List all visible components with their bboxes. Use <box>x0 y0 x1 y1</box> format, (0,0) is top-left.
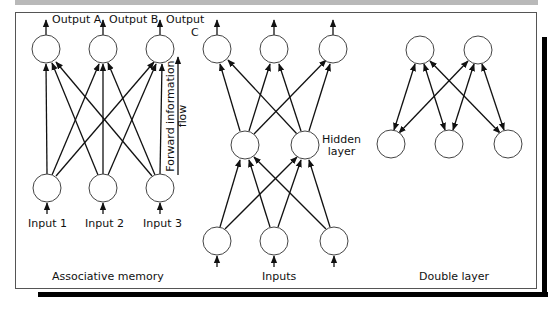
input-1-label: Input 1 <box>28 218 67 230</box>
output-c-suffix: C <box>191 27 199 39</box>
inputs-caption: Inputs <box>262 270 296 283</box>
forward-flow-label: Forward information flow <box>165 56 189 176</box>
input-2-label: Input 2 <box>85 218 124 230</box>
output-c-label: Output <box>166 14 204 26</box>
double-layer-caption: Double layer <box>419 270 489 283</box>
double-layer-nodes <box>377 36 522 158</box>
neural-network-diagram <box>0 0 553 309</box>
forward-flow-label-line2: flow <box>177 56 189 176</box>
output-a-label: Output A <box>52 14 101 26</box>
output-b-label: Output B <box>109 14 158 26</box>
hidden-label-line2: layer <box>322 146 361 158</box>
double-layer-network <box>394 61 504 133</box>
hidden-layer-label: Hidden layer <box>322 134 361 158</box>
input-3-label: Input 3 <box>143 218 182 230</box>
associative-memory-caption: Associative memory <box>52 270 164 283</box>
